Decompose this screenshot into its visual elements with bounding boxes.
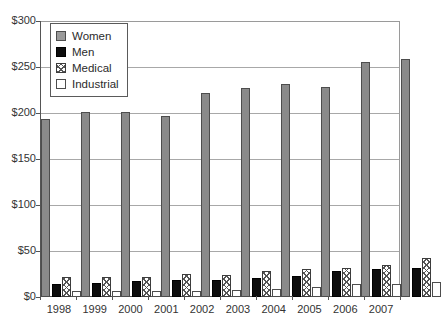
bar-industrial-1999 <box>112 291 121 297</box>
x-tick-mark <box>112 296 113 300</box>
legend-label: Medical <box>72 62 112 74</box>
bar-men-2002 <box>212 280 221 297</box>
x-tick-label: 2003 <box>220 303 256 315</box>
x-tick-label: 2004 <box>256 303 292 315</box>
bar-medical-2002 <box>222 275 231 297</box>
bar-men-1999 <box>92 283 101 297</box>
bar-group <box>321 22 361 297</box>
x-tick-label: 2001 <box>148 303 184 315</box>
bar-medical-2004 <box>302 269 311 297</box>
y-tick-label: $200 <box>0 107 36 118</box>
legend-item-women[interactable]: Women <box>56 28 119 44</box>
bar-medical-2007 <box>422 258 431 297</box>
bar-men-2003 <box>252 278 261 297</box>
x-tick-mark <box>364 296 365 300</box>
x-tick-label: 1999 <box>77 303 113 315</box>
bar-women-2001 <box>161 116 170 297</box>
x-tick-mark <box>76 296 77 300</box>
y-tick-label: $150 <box>0 153 36 164</box>
bar-men-2005 <box>332 271 341 297</box>
x-tick-mark <box>400 296 401 300</box>
bar-men-2004 <box>292 276 301 297</box>
bar-group <box>361 22 401 297</box>
bar-women-2004 <box>281 84 290 297</box>
legend-label: Industrial <box>72 78 119 90</box>
bar-men-2001 <box>172 280 181 297</box>
bar-medical-1999 <box>102 277 111 297</box>
bar-industrial-2003 <box>272 289 281 297</box>
bar-group <box>241 22 281 297</box>
legend-swatch-industrial-icon <box>56 79 66 89</box>
x-tick-label: 2006 <box>327 303 363 315</box>
bar-group <box>401 22 441 297</box>
x-tick-label: 2007 <box>363 303 399 315</box>
legend-item-industrial[interactable]: Industrial <box>56 76 119 92</box>
bar-women-2007 <box>401 59 410 297</box>
x-tick-label: 2000 <box>113 303 149 315</box>
bar-group <box>281 22 321 297</box>
legend-label: Men <box>72 46 94 58</box>
x-tick-mark <box>40 296 41 300</box>
x-tick-mark <box>256 296 257 300</box>
y-tick-label: $250 <box>0 61 36 72</box>
y-tick-label: $300 <box>0 15 36 26</box>
bar-men-2007 <box>412 268 421 297</box>
x-tick-mark <box>184 296 185 300</box>
bar-medical-2001 <box>182 274 191 297</box>
bar-group <box>161 22 201 297</box>
bar-medical-2000 <box>142 277 151 297</box>
bar-women-2000 <box>121 112 130 297</box>
x-tick-mark <box>220 296 221 300</box>
bar-men-1998 <box>52 284 61 297</box>
legend-swatch-medical-icon <box>56 63 66 73</box>
x-axis-labels: 1998199920002001200220032004200520062007 <box>41 303 399 315</box>
x-tick-mark <box>148 296 149 300</box>
bar-industrial-2005 <box>352 284 361 297</box>
legend-item-men[interactable]: Men <box>56 44 119 60</box>
bar-women-2003 <box>241 88 250 297</box>
y-tick-label: $0 <box>0 291 36 302</box>
legend-label: Women <box>72 30 111 42</box>
x-tick-label: 2005 <box>292 303 328 315</box>
bar-medical-1998 <box>62 277 71 297</box>
bar-industrial-2000 <box>152 291 161 297</box>
bar-men-2000 <box>132 281 141 297</box>
legend-item-medical[interactable]: Medical <box>56 60 119 76</box>
bar-men-2006 <box>372 269 381 297</box>
y-tick-label: $50 <box>0 245 36 256</box>
bar-group <box>201 22 241 297</box>
x-tick-mark <box>292 296 293 300</box>
bar-industrial-2004 <box>312 287 321 297</box>
bar-industrial-2002 <box>232 290 241 297</box>
bar-medical-2005 <box>342 268 351 297</box>
bar-industrial-2001 <box>192 291 201 297</box>
bar-women-2002 <box>201 93 210 297</box>
bar-women-2005 <box>321 87 330 297</box>
legend-swatch-men-icon <box>56 47 66 57</box>
bar-medical-2006 <box>382 265 391 297</box>
bar-women-1998 <box>41 119 50 297</box>
bar-women-2006 <box>361 62 370 297</box>
x-tick-mark <box>328 296 329 300</box>
chart-legend: WomenMenMedicalIndustrial <box>50 23 128 97</box>
x-tick-label: 1998 <box>41 303 77 315</box>
y-tick-label: $100 <box>0 199 36 210</box>
bar-women-1999 <box>81 112 90 297</box>
x-tick-label: 2002 <box>184 303 220 315</box>
legend-swatch-women-icon <box>56 31 66 41</box>
bar-medical-2003 <box>262 271 271 297</box>
bar-industrial-2007 <box>432 282 441 297</box>
